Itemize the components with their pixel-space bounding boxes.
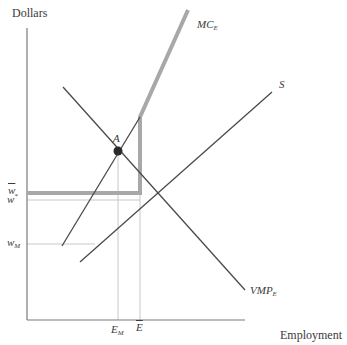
x-axis-label: Employment <box>280 328 342 343</box>
mc-curve-label: MCE <box>197 18 218 32</box>
supply-curve <box>80 92 272 262</box>
e-m-label: EM <box>111 323 124 337</box>
effective-mc-highlight <box>27 10 188 193</box>
y-axis-label: Dollars <box>12 6 47 21</box>
vmp-curve-label: VMPE <box>250 284 277 298</box>
point-a-label: A <box>113 132 120 144</box>
w-bar-label: w <box>8 184 15 196</box>
e-bar-label: E <box>136 321 143 333</box>
supply-curve-label: S <box>279 78 285 90</box>
vmp-curve <box>63 87 245 290</box>
diagram-canvas <box>0 0 347 345</box>
mc-curve <box>62 117 140 246</box>
point-a-marker <box>114 147 123 156</box>
w-m-label: wM <box>7 236 20 250</box>
